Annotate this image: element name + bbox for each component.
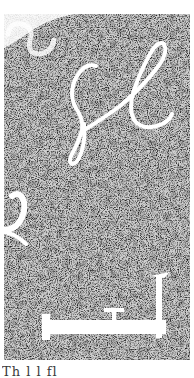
cropped-caption: Th l l fl <box>2 364 192 378</box>
noise-texture <box>4 14 190 360</box>
texture-svg <box>4 14 190 360</box>
bracket-right-post <box>156 276 162 338</box>
bracket-bar <box>42 320 166 334</box>
bracket-left-post <box>42 314 50 340</box>
t-mark-top <box>104 308 124 312</box>
